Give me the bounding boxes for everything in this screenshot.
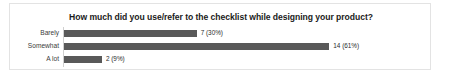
value-label-a-lot: 2 (9%) bbox=[106, 55, 125, 63]
category-label-somewhat: Somewhat bbox=[10, 42, 59, 50]
bar-barely bbox=[64, 30, 197, 37]
category-label-a-lot: A lot bbox=[10, 55, 59, 63]
bar-row: A lot 2 (9%) bbox=[10, 53, 431, 66]
chart-container: How much did you use/refer to the checkl… bbox=[9, 3, 431, 70]
bar-track: 2 (9%) bbox=[64, 53, 431, 66]
bar-row: Somewhat 14 (61%) bbox=[10, 40, 431, 53]
value-label-barely: 7 (30%) bbox=[201, 29, 223, 37]
chart-title: How much did you use/refer to the checkl… bbox=[10, 12, 431, 22]
bar-somewhat bbox=[64, 43, 329, 50]
value-label-somewhat: 14 (61%) bbox=[333, 42, 359, 50]
bar-a-lot bbox=[64, 56, 102, 63]
bar-track: 7 (30%) bbox=[64, 27, 431, 40]
bar-track: 14 (61%) bbox=[64, 40, 431, 53]
plot-area: Barely 7 (30%) Somewhat 14 (61%) A lot 2… bbox=[10, 27, 431, 69]
bar-row: Barely 7 (30%) bbox=[10, 27, 431, 40]
category-label-barely: Barely bbox=[10, 29, 59, 37]
